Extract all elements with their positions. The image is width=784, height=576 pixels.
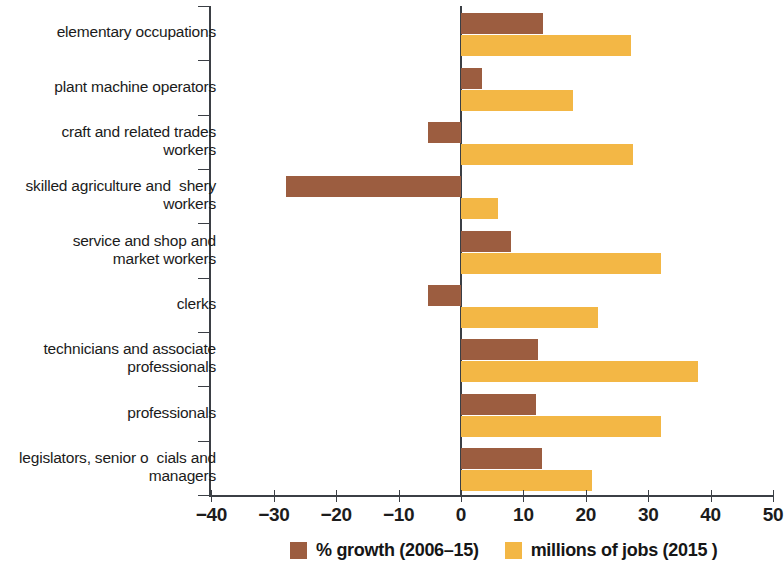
- x-axis-tick: [523, 490, 524, 502]
- category-label: clerks: [177, 295, 216, 313]
- bar-jobs: [461, 144, 633, 165]
- x-axis-tick-label: −10: [369, 504, 429, 526]
- x-axis-tick: [274, 490, 275, 502]
- bar-jobs: [461, 35, 631, 56]
- x-axis-tick: [648, 490, 649, 502]
- y-axis-tick: [198, 332, 210, 333]
- bar-growth: [461, 448, 542, 469]
- legend-item[interactable]: % growth (2006–15): [290, 540, 479, 561]
- bar-growth: [286, 176, 461, 197]
- y-axis-tick: [198, 278, 210, 279]
- x-axis-tick-label: 0: [431, 504, 491, 526]
- legend-swatch-jobs-icon: [505, 542, 522, 559]
- chart-legend: % growth (2006–15)millions of jobs (2015…: [0, 538, 784, 576]
- bar-jobs: [461, 361, 698, 382]
- x-axis-tick-label: 50: [743, 504, 784, 526]
- legend-label: % growth (2006–15): [316, 540, 479, 561]
- legend-swatch-growth-icon: [290, 542, 307, 559]
- x-axis-tick-label: 40: [681, 504, 741, 526]
- legend-label: millions of jobs (2015 ): [531, 540, 718, 561]
- bar-jobs: [461, 307, 598, 328]
- y-axis-tick: [198, 223, 210, 224]
- category-label: craft and related trades workers: [61, 123, 216, 159]
- category-label: elementary occupations: [57, 23, 216, 41]
- bar-growth: [461, 339, 538, 360]
- bar-growth: [461, 13, 543, 34]
- x-axis-tick-label: 10: [493, 504, 553, 526]
- bar-jobs: [461, 470, 592, 491]
- y-axis-tick: [198, 386, 210, 387]
- bar-jobs: [461, 198, 498, 219]
- category-label: technicians and associate professionals: [43, 340, 216, 376]
- x-axis-tick: [399, 490, 400, 502]
- x-axis-tick-label: −40: [181, 504, 241, 526]
- bar-growth: [461, 394, 536, 415]
- y-axis-tick: [198, 115, 210, 116]
- x-axis-tick-label: −30: [244, 504, 304, 526]
- x-axis-tick-label: 30: [618, 504, 678, 526]
- bar-jobs: [461, 416, 661, 437]
- bar-growth: [461, 68, 482, 89]
- y-axis-tick: [198, 6, 210, 7]
- legend-item[interactable]: millions of jobs (2015 ): [505, 540, 718, 561]
- category-label: skilled agriculture and shery workers: [26, 177, 216, 213]
- category-label: professionals: [127, 404, 216, 422]
- x-axis-tick: [711, 490, 712, 502]
- category-label: plant machine operators: [54, 78, 216, 96]
- category-label: service and shop and market workers: [73, 232, 216, 268]
- x-axis-tick: [336, 490, 337, 502]
- bar-growth: [461, 231, 511, 252]
- y-axis-tick: [198, 495, 210, 496]
- plot-area: elementary occupationsplant machine oper…: [0, 0, 784, 500]
- bar-growth: [428, 122, 461, 143]
- category-label: legislators, senior o cials and managers: [19, 449, 216, 485]
- bar-jobs: [461, 90, 573, 111]
- x-axis-tick: [461, 490, 462, 502]
- bar-chart: elementary occupationsplant machine oper…: [0, 0, 784, 576]
- x-axis-tick-label: −20: [306, 504, 366, 526]
- y-axis-tick: [198, 60, 210, 61]
- y-axis-tick: [198, 441, 210, 442]
- x-axis-tick: [773, 490, 774, 502]
- bar-jobs: [461, 253, 661, 274]
- x-axis-spine: [209, 495, 773, 497]
- x-axis-tick-label: 20: [556, 504, 616, 526]
- y-axis-tick: [198, 169, 210, 170]
- x-axis-tick: [211, 490, 212, 502]
- x-axis-tick: [586, 490, 587, 502]
- bar-growth: [428, 285, 461, 306]
